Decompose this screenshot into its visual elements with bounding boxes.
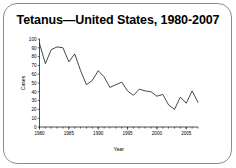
y-tick-label: 0	[34, 125, 37, 130]
y-tick-label: 50	[31, 81, 37, 86]
y-tick-label: 10	[31, 116, 37, 121]
y-tick-label: 90	[31, 46, 37, 51]
data-series-line	[40, 43, 199, 109]
slide-canvas: Tetanus—United States, 1980-2007 0102030…	[0, 0, 236, 168]
y-tick-label: 40	[31, 90, 37, 95]
line-chart-svg: 0102030405060708090100198019851990199520…	[0, 0, 236, 168]
x-tick-label: 2005	[181, 131, 192, 136]
axis-lines	[40, 39, 199, 127]
y-tick-label: 60	[31, 72, 37, 77]
y-tick-label: 30	[31, 98, 37, 103]
x-tick-label: 1995	[122, 131, 133, 136]
y-tick-label: 80	[31, 54, 37, 59]
x-tick-label: 1985	[64, 131, 75, 136]
y-tick-label: 100	[29, 37, 37, 42]
x-axis-title: Year	[114, 146, 125, 152]
y-axis-title: Cases	[20, 75, 26, 90]
y-tick-label: 70	[31, 63, 37, 68]
chart-area: 0102030405060708090100198019851990199520…	[0, 0, 236, 168]
x-tick-label: 1990	[93, 131, 104, 136]
x-tick-label: 2000	[152, 131, 163, 136]
x-tick-label: 1980	[34, 131, 45, 136]
y-tick-label: 20	[31, 107, 37, 112]
